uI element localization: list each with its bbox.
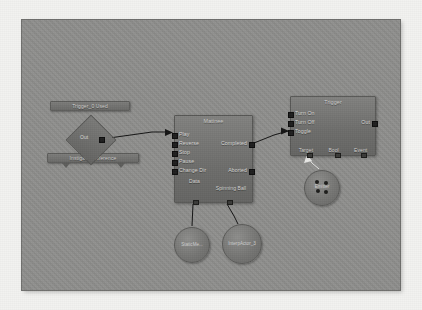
trigger-pin-turn-on[interactable]	[288, 112, 294, 118]
node-emitter[interactable]: Emitter	[304, 170, 340, 206]
node-event-diamond[interactable]: Out	[66, 116, 114, 162]
trigger-label-out: Out	[361, 119, 370, 127]
matinee-label-change-dir: Change Dir	[179, 167, 206, 175]
node-static-mesh-label: StaticMe...	[179, 242, 205, 248]
matinee-label-completed: Completed	[221, 140, 247, 148]
matinee-pin-aborted[interactable]	[249, 169, 255, 175]
trigger-pin-bool[interactable]	[335, 153, 341, 158]
trigger-pin-event[interactable]	[361, 153, 367, 158]
trigger-pin-turn-off[interactable]	[288, 121, 294, 127]
wire-spinning-ball-to-interp-actor	[227, 204, 238, 224]
matinee-pin-spinning-ball[interactable]	[227, 200, 233, 205]
matinee-label-aborted: Aborted	[228, 167, 247, 175]
node-trigger[interactable]: Trigger Turn On Turn Off Toggle Out Targ…	[290, 96, 376, 156]
trigger-pin-target[interactable]	[307, 153, 313, 158]
node-static-mesh[interactable]: StaticMe...	[174, 227, 210, 263]
trigger-label-turn-on: Turn On	[295, 110, 315, 118]
node-interp-actor-label: InterpActor_3	[226, 241, 258, 247]
matinee-pin-reverse[interactable]	[172, 142, 178, 148]
matinee-pin-data[interactable]	[193, 200, 199, 205]
matinee-pin-change-dir[interactable]	[172, 169, 178, 175]
event-diamond-shape	[66, 115, 117, 166]
node-interp-actor[interactable]: InterpActor_3	[222, 224, 262, 264]
matinee-pin-play[interactable]	[172, 133, 178, 139]
matinee-pin-completed[interactable]	[249, 142, 255, 148]
matinee-label-data: Data	[189, 178, 200, 185]
event-diamond-out-pin[interactable]	[99, 137, 105, 143]
matinee-label-pause: Pause	[179, 158, 194, 166]
instigator-pin-right-arrow[interactable]	[117, 163, 125, 168]
wire-emitter-to-target	[308, 157, 319, 169]
node-trigger-used-title: Trigger_0 Used	[51, 102, 129, 111]
node-trigger-used[interactable]: Trigger_0 Used	[50, 101, 130, 111]
node-matinee-title: Matinee	[175, 117, 252, 127]
wire-data-to-static-mesh	[192, 204, 193, 226]
matinee-label-stop: Stop	[179, 149, 190, 157]
node-graph-canvas[interactable]: Trigger_0 Used Out Instigator Difference…	[22, 20, 400, 290]
event-diamond-out-label: Out	[80, 134, 88, 140]
matinee-label-spinning-ball: Spinning Ball	[211, 185, 251, 191]
screenshot-root: Trigger_0 Used Out Instigator Difference…	[0, 0, 422, 310]
node-emitter-label: Emitter	[305, 184, 339, 190]
wire-completed-to-toggle	[254, 131, 288, 143]
trigger-pin-toggle[interactable]	[288, 130, 294, 136]
instigator-pin-left-arrow[interactable]	[62, 163, 70, 168]
matinee-label-reverse: Reverse	[179, 140, 199, 148]
node-matinee[interactable]: Matinee Play Reverse Stop Pause Change D…	[174, 115, 253, 203]
matinee-label-play: Play	[179, 131, 190, 139]
trigger-label-turn-off: Turn Off	[295, 119, 315, 127]
trigger-label-toggle: Toggle	[295, 128, 311, 136]
trigger-pin-out[interactable]	[372, 121, 378, 127]
matinee-pin-pause[interactable]	[172, 160, 178, 166]
node-trigger-title: Trigger	[291, 98, 375, 108]
matinee-pin-stop[interactable]	[172, 151, 178, 157]
